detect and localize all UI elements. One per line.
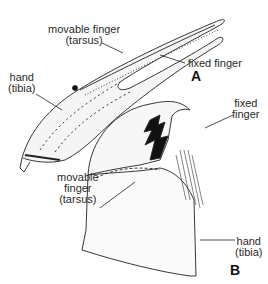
label-a-hand: hand (tibia) <box>8 72 36 94</box>
label-b-fixed-finger: fixed finger <box>232 98 260 120</box>
label-b-hand: hand (tibia) <box>235 236 263 258</box>
label-text: (tarsus) <box>57 194 99 205</box>
chelicera-figure: movable finger (tarsus) fixed finger A h… <box>0 0 268 284</box>
label-subtext: (tibia) <box>8 83 36 94</box>
label-a-movable-finger: movable finger (tarsus) <box>48 24 120 46</box>
drawing <box>0 0 268 284</box>
label-text: finger <box>232 109 260 120</box>
panel-letter-b: B <box>230 262 240 278</box>
panel-letter-a: A <box>191 68 201 84</box>
label-subtext: (tarsus) <box>48 35 120 46</box>
label-b-movable-finger: movable finger (tarsus) <box>57 172 99 205</box>
label-subtext: (tibia) <box>235 247 263 258</box>
